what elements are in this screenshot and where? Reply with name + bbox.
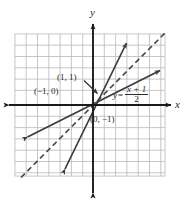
point-label-1-1: (1, 1) — [57, 73, 77, 82]
equation-fraction: x + 1 2 — [125, 85, 148, 105]
coordinate-plane-svg — [0, 0, 190, 201]
point-label-neg1-0: (−1, 0) — [34, 87, 59, 96]
equation-numerator: x + 1 — [125, 85, 148, 94]
y-axis-label: y — [90, 7, 95, 18]
equation-denominator: 2 — [134, 95, 139, 104]
equation-equals: = — [118, 90, 123, 100]
x-axis-label: x — [175, 99, 180, 110]
equation-lhs: y — [113, 90, 117, 100]
equation-label: y = x + 1 2 — [113, 85, 148, 105]
graph-figure: y x (1, 1) (−1, 0) (0, −1) y = x + 1 2 — [0, 0, 190, 201]
callout-arrow-to-point-1-1 — [84, 81, 98, 94]
point-label-0-neg1: (0, −1) — [90, 115, 115, 124]
